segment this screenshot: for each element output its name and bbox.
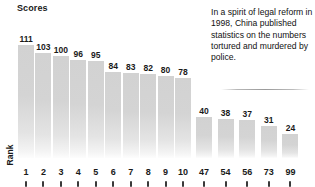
axis-tick	[289, 181, 291, 187]
bar	[70, 60, 86, 158]
bar	[123, 73, 139, 158]
axis-tick	[42, 181, 44, 187]
axis-tick	[60, 181, 62, 187]
bar	[196, 117, 212, 158]
annotation-text: In a spirit of legal reform in 1998, Chi…	[211, 7, 313, 63]
bar	[140, 74, 156, 158]
bar	[53, 56, 69, 158]
axis-tick	[246, 181, 248, 187]
axis-tick	[25, 181, 27, 187]
axis-tick	[147, 181, 149, 187]
bar-value-label: 24	[277, 124, 303, 133]
axis-tick	[112, 181, 114, 187]
bar-value-label: 95	[83, 51, 109, 60]
bar	[158, 76, 174, 158]
rank-label: 99	[277, 167, 303, 177]
bar	[35, 53, 51, 158]
axis-tick	[165, 181, 167, 187]
axis-tick	[268, 181, 270, 187]
bar	[218, 119, 234, 158]
axis-tick	[95, 181, 97, 187]
bar-chart: Scores Rank 1111103210039649558468378288…	[0, 0, 315, 187]
axis-tick	[225, 181, 227, 187]
bar-value-label: 78	[170, 68, 196, 77]
bar	[282, 134, 298, 158]
bar	[261, 126, 277, 158]
bar	[175, 78, 191, 158]
axis-tick	[182, 181, 184, 187]
bar	[239, 120, 255, 158]
axis-tick	[203, 181, 205, 187]
axis-tick	[77, 181, 79, 187]
axis-tick	[130, 181, 132, 187]
bar	[105, 72, 121, 158]
bar	[18, 45, 34, 158]
bar	[88, 61, 104, 158]
annotation-divider	[221, 89, 309, 90]
